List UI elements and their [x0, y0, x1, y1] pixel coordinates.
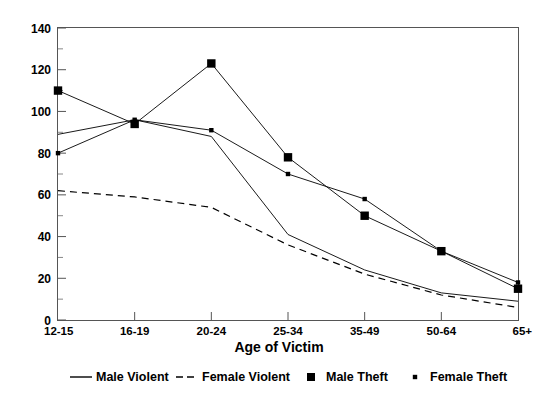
data-point-marker — [286, 172, 290, 176]
x-tick-label: 16-19 — [120, 325, 149, 337]
legend-item: Male Theft — [307, 370, 389, 384]
y-tick-label: 100 — [31, 105, 51, 119]
y-axis-tick-labels: 020406080100120140 — [31, 22, 51, 328]
legend-label: Female Theft — [430, 370, 508, 384]
x-axis-title: Age of Victim — [234, 339, 323, 355]
data-point-marker — [209, 128, 213, 132]
legend-label: Male Theft — [326, 370, 389, 384]
x-tick-label: 12-15 — [44, 325, 74, 337]
data-point-marker — [284, 153, 292, 161]
y-tick-label: 140 — [31, 22, 51, 36]
legend-item: Female Theft — [413, 370, 508, 384]
large-square-swatch-icon — [307, 373, 315, 381]
x-axis-tick-labels: 12-1516-1920-2425-3435-4950-6465+ — [44, 325, 532, 337]
data-point-marker — [132, 118, 136, 122]
chart-container: 020406080100120140 12-1516-1920-2425-343… — [0, 0, 558, 397]
x-tick-label: 25-34 — [273, 325, 303, 337]
data-point-marker — [207, 59, 215, 67]
x-tick-label: 65+ — [512, 325, 532, 337]
data-point-marker — [514, 285, 522, 293]
x-tick-label: 50-64 — [427, 325, 457, 337]
data-point-marker — [439, 249, 443, 253]
data-point-marker — [56, 151, 60, 155]
legend-item: Female Violent — [176, 370, 291, 384]
y-tick-label: 60 — [38, 188, 52, 202]
y-tick-label: 120 — [31, 63, 51, 77]
legend-item: Male Violent — [70, 370, 170, 384]
data-point-marker — [54, 86, 62, 94]
chart-legend: Male ViolentFemale ViolentMale TheftFema… — [70, 370, 508, 384]
x-tick-label: 35-49 — [350, 325, 379, 337]
y-tick-label: 80 — [38, 147, 52, 161]
legend-label: Female Violent — [202, 370, 291, 384]
line-chart: 020406080100120140 12-1516-1920-2425-343… — [0, 0, 558, 397]
data-point-marker — [360, 212, 368, 220]
data-point-marker — [362, 197, 366, 201]
y-tick-label: 20 — [38, 272, 52, 286]
legend-label: Male Violent — [96, 370, 170, 384]
data-point-marker — [516, 280, 520, 284]
y-tick-label: 40 — [38, 230, 52, 244]
x-tick-label: 20-24 — [197, 325, 227, 337]
small-square-swatch-icon — [413, 375, 417, 379]
